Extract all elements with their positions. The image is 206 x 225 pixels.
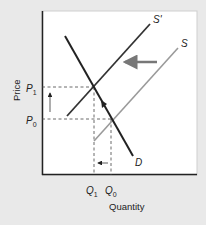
supply-demand-chart: S' S D P1 P0 Q1 Q0 Quantity Price <box>0 0 206 225</box>
plot-area <box>42 11 197 175</box>
label-s-prime: S' <box>153 14 163 25</box>
label-p1: P1 <box>26 83 37 96</box>
label-d: D <box>135 157 142 168</box>
label-q1: Q1 <box>86 185 98 198</box>
label-s: S <box>181 38 188 49</box>
label-p0: P0 <box>26 115 37 128</box>
x-axis-label: Quantity <box>109 201 145 212</box>
label-q0: Q0 <box>105 185 117 198</box>
y-axis-label: Price <box>11 79 22 101</box>
